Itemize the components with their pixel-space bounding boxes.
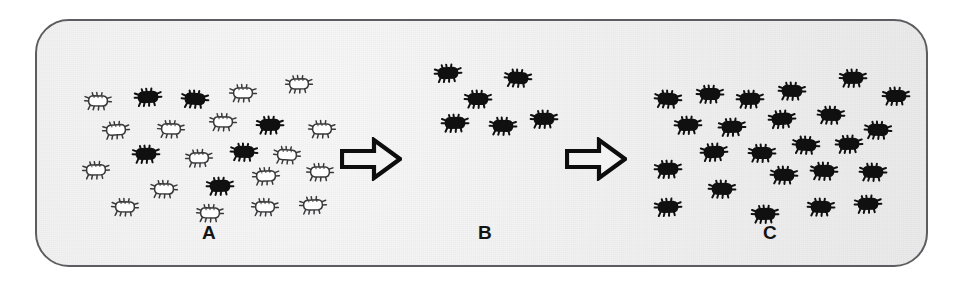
susceptible-insect-icon (156, 119, 186, 139)
resistant-insect-icon (205, 176, 235, 196)
resistant-insect-icon (735, 89, 765, 109)
susceptible-insect-icon (298, 195, 328, 215)
susceptible-insect-icon (81, 160, 111, 180)
arrow-b-to-c-icon (565, 137, 627, 181)
susceptible-insect-icon (272, 145, 302, 165)
resistant-insect-icon (653, 197, 683, 217)
resistant-insect-icon (133, 87, 163, 107)
panel-b-label: B (465, 222, 505, 244)
resistant-insect-icon (488, 116, 518, 136)
resistant-insect-icon (750, 204, 780, 224)
resistant-insect-icon (180, 89, 210, 109)
resistant-insect-icon (440, 113, 470, 133)
resistant-insect-icon (699, 142, 729, 162)
figure-root: A B C (0, 0, 961, 285)
resistant-insect-icon (747, 143, 777, 163)
susceptible-insect-icon (284, 74, 314, 94)
figure-frame: A B C (35, 19, 928, 267)
resistant-insect-icon (881, 86, 911, 106)
resistant-insect-icon (229, 142, 259, 162)
resistant-insect-icon (858, 162, 888, 182)
arrow-a-to-b-icon (340, 137, 402, 181)
resistant-insect-icon (863, 120, 893, 140)
resistant-insect-icon (653, 89, 683, 109)
susceptible-insect-icon (110, 197, 140, 217)
susceptible-insect-icon (250, 197, 280, 217)
resistant-insect-icon (769, 165, 799, 185)
resistant-insect-icon (717, 117, 747, 137)
resistant-insect-icon (653, 159, 683, 179)
susceptible-insect-icon (101, 120, 131, 140)
resistant-insect-icon (777, 81, 807, 101)
resistant-insect-icon (673, 115, 703, 135)
panel-c-label: C (750, 222, 790, 244)
resistant-insect-icon (806, 197, 836, 217)
susceptible-insect-icon (208, 112, 238, 132)
resistant-insect-icon (463, 89, 493, 109)
resistant-insect-icon (816, 105, 846, 125)
resistant-insect-icon (853, 194, 883, 214)
susceptible-insect-icon (184, 148, 214, 168)
susceptible-insect-icon (307, 119, 337, 139)
susceptible-insect-icon (149, 179, 179, 199)
resistant-insect-icon (503, 68, 533, 88)
resistant-insect-icon (131, 144, 161, 164)
resistant-insect-icon (433, 63, 463, 83)
resistant-insect-icon (838, 68, 868, 88)
resistant-insect-icon (529, 109, 559, 129)
susceptible-insect-icon (228, 83, 258, 103)
susceptible-insect-icon (83, 91, 113, 111)
resistant-insect-icon (834, 134, 864, 154)
resistant-insect-icon (695, 84, 725, 104)
resistant-insect-icon (791, 135, 821, 155)
susceptible-insect-icon (251, 166, 281, 186)
resistant-insect-icon (809, 161, 839, 181)
susceptible-insect-icon (195, 203, 225, 223)
susceptible-insect-icon (305, 162, 335, 182)
resistant-insect-icon (255, 115, 285, 135)
panel-a-label: A (189, 222, 229, 244)
resistant-insect-icon (707, 179, 737, 199)
resistant-insect-icon (767, 109, 797, 129)
